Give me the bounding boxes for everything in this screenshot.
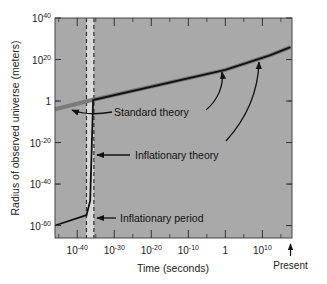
annotation-inflationary-period: Inflationary period [120, 212, 204, 224]
y-tick-label: 10-20 [30, 137, 51, 149]
x-tick-label: 10-40 [67, 244, 88, 256]
annotation-standard-theory: Standard theory [114, 106, 189, 118]
x-tick-label: 10-10 [178, 244, 199, 256]
plot-area [55, 18, 292, 238]
x-tick-label: 1010 [253, 244, 272, 256]
y-axis-title: Radius of observed universe (meters) [9, 40, 21, 215]
chart: Standard theoryInflationary theoryInflat… [0, 0, 327, 284]
y-tick-label: 1040 [32, 12, 51, 24]
y-tick-label: 10-60 [30, 220, 51, 232]
annotation-inflationary-theory: Inflationary theory [135, 149, 219, 161]
x-tick-label: 10-20 [141, 244, 162, 256]
x-tick-label: 1 [223, 245, 229, 256]
y-tick-label: 1 [45, 96, 51, 107]
y-tick-label: 1020 [32, 54, 51, 66]
y-tick-label: 10-40 [30, 178, 51, 190]
x-tick-label: 10-30 [104, 244, 125, 256]
present-label: Present [273, 260, 308, 271]
x-axis-title: Time (seconds) [137, 262, 209, 274]
